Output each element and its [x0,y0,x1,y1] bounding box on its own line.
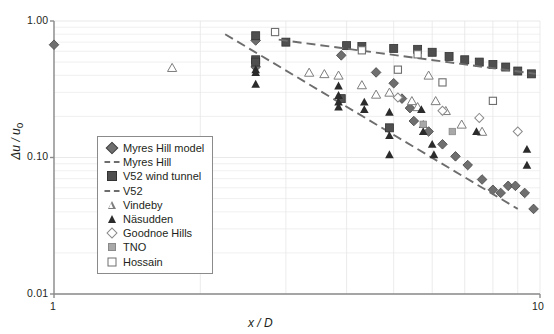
data-point [475,113,484,122]
data-point [360,105,369,113]
legend-item-label: Myres Hill model [120,142,204,154]
legend-marker-triangle-filled [103,213,120,226]
data-point [271,28,278,35]
wake-deficit-chart: 1.00 0.10 0.01 1 10 Δu / uo x / D Myres … [0,0,554,334]
y-tick-label-3: 0.01 [27,287,48,299]
data-point [320,70,329,78]
y-axis-title-subscript: o [14,123,25,129]
data-point [358,47,365,54]
legend-marker-diamond-open [103,227,120,240]
series-myres-hill [225,34,518,209]
legend-item: Myres Hill model [103,141,204,155]
data-point [252,32,260,40]
data-point [394,66,401,73]
data-point [523,161,532,169]
data-point [451,152,461,162]
data-point [414,51,421,58]
data-point [428,48,436,56]
data-point [390,44,398,52]
y-tick-label-2: 0.10 [27,150,48,162]
data-point [449,128,455,134]
legend-marker-triangle-open [103,198,120,211]
data-point [360,98,369,106]
legend-item: Goodnoe Hills [103,226,204,240]
x-tick-label-1: 1 [50,300,56,312]
data-point [428,140,437,148]
data-point [477,175,487,185]
data-point [461,56,469,64]
plot-canvas [0,0,554,334]
data-point [372,90,381,98]
data-point [409,116,419,126]
data-point [430,150,439,158]
legend-item: TNO [103,240,204,254]
y-axis-title: Δu / uo [9,106,25,176]
data-point [475,58,483,66]
legend-item-label: V52 [120,185,143,197]
data-point [445,52,453,60]
legend-item-label: Myres Hill [120,156,171,168]
x-axis-title: x / D [248,316,273,330]
legend-marker-dash-line [103,156,120,169]
legend-item-label: Hossain [120,256,163,268]
data-point [385,131,394,139]
legend-item: Hossain [103,255,204,269]
y-axis-title-text: Δu / u [9,128,23,159]
x-tick-label-2: 10 [532,300,544,312]
data-point [439,79,446,86]
legend-marker-diamond-filled [103,142,120,155]
legend-item: Myres Hill [103,155,204,169]
data-point [389,78,399,88]
chart-legend: Myres Hill modelMyres HillV52 wind tunne… [97,136,213,274]
data-point [438,139,448,149]
legend-item: V52 [103,184,204,198]
data-point [489,97,496,104]
legend-item-label: Goodnoe Hills [120,227,192,239]
legend-marker-square-open [103,255,120,268]
data-point [305,68,314,76]
series-hossain [271,28,496,104]
series-vindeby [168,63,487,135]
data-point [511,181,521,191]
data-point [513,127,522,136]
legend-item-label: V52 wind tunnel [120,170,201,182]
data-point [523,145,532,153]
data-point [529,204,539,214]
data-point [420,121,426,127]
data-point [49,40,59,50]
legend-item-label: TNO [120,241,146,253]
data-point [385,124,393,132]
legend-marker-square-filled [103,170,120,183]
data-point [385,108,394,116]
y-tick-label-1: 1.00 [27,14,48,26]
data-point [334,82,343,90]
data-point [407,97,416,105]
legend-item: Näsudden [103,212,204,226]
legend-item-label: Näsudden [120,213,173,225]
legend-marker-dash-line [103,184,120,197]
data-point [371,68,381,78]
legend-item: Vindeby [103,198,204,212]
data-point [385,150,394,158]
data-point [251,80,260,88]
data-point [520,188,530,198]
data-point [357,81,366,89]
trend-line [225,34,518,209]
data-point [336,51,346,61]
data-point [168,63,177,71]
legend-item-label: Vindeby [120,199,163,211]
legend-marker-square-gray [103,241,120,254]
legend-item: V52 wind tunnel [103,169,204,183]
data-point [252,58,260,66]
